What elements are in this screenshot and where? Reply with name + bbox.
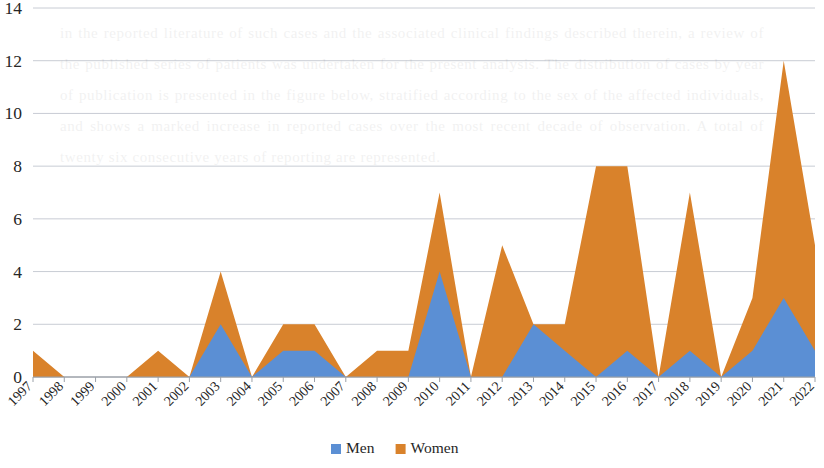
x-tick-label: 2015 [568,379,598,409]
y-axis-labels: 02468101214 [5,0,23,387]
x-tick-label: 2019 [693,379,723,409]
x-tick-label: 1998 [36,379,66,409]
y-tick-label: 6 [13,209,22,229]
y-tick-label: 14 [5,0,23,18]
x-tick-label: 2013 [505,379,535,409]
legend-label-men: Men [346,439,375,456]
legend-swatch-men [331,444,341,454]
y-tick-label: 8 [13,156,22,176]
x-axis-labels: 1997199819992000200120022003200420052006… [5,379,817,409]
y-tick-label: 12 [5,51,23,71]
x-tick-label: 2021 [755,379,785,409]
x-tick-label: 2014 [536,379,566,409]
x-tick-label: 1999 [67,379,97,409]
x-tick-label: 2009 [380,379,410,409]
chart-legend: MenWomen [331,439,459,456]
x-tick-label: 2005 [255,379,285,409]
x-tick-label: 2020 [724,379,754,409]
x-tick-label: 2008 [349,379,379,409]
chart-container: in the reported literature of such cases… [0,0,824,468]
x-tick-label: 2022 [787,379,817,409]
x-tick-label: 2001 [130,379,160,409]
x-tick-label: 2012 [474,379,504,409]
x-tick-label: 2007 [318,379,348,409]
x-tick-label: 2010 [411,379,441,409]
x-tick-label: 2017 [630,379,660,409]
x-tick-label: 2016 [599,379,629,409]
x-tick-label: 2011 [443,379,473,409]
legend-swatch-women [396,444,406,454]
y-tick-label: 2 [13,314,22,334]
y-tick-label: 10 [5,103,23,123]
x-tick-label: 2002 [161,379,191,409]
x-tick-label: 1997 [5,379,35,409]
x-tick-label: 2000 [99,379,129,409]
x-tick-label: 2004 [224,379,254,409]
legend-label-women: Women [411,439,459,456]
x-tick-label: 2006 [286,379,316,409]
x-tick-label: 2003 [192,379,222,409]
stacked-area-chart: 02468101214 1997199819992000200120022003… [0,0,824,468]
x-tick-label: 2018 [662,379,692,409]
y-tick-label: 4 [13,262,22,282]
